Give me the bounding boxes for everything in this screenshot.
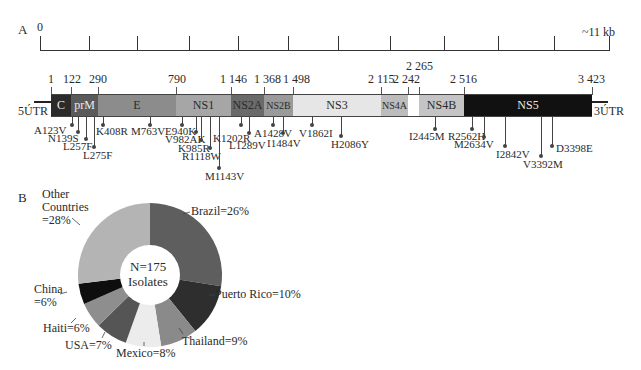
- label-thailand: Thailand=9%: [182, 336, 247, 347]
- label-other-line1: Other: [42, 189, 69, 200]
- label-other-line3: =28%: [42, 215, 71, 226]
- label-china-line2: =6%: [34, 297, 57, 308]
- label-haiti: Haiti=6%: [43, 323, 90, 334]
- label-mexico: Mexico=8%: [116, 348, 175, 359]
- label-other-line2: Countries: [42, 202, 89, 213]
- label-brazil: Brazil=26%: [191, 206, 249, 217]
- leader-lines: [0, 0, 641, 370]
- label-puerto-rico: Puerto Rico=10%: [215, 289, 301, 300]
- label-china-line1: China: [34, 284, 63, 295]
- label-usa: USA=7%: [65, 340, 112, 351]
